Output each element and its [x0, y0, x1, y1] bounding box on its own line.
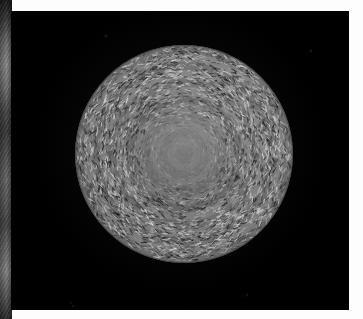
page-background: [0, 0, 363, 319]
textured-sphere: [75, 45, 293, 263]
photo-plate: [11, 11, 349, 310]
sphere-fiber-texture: [75, 45, 293, 263]
